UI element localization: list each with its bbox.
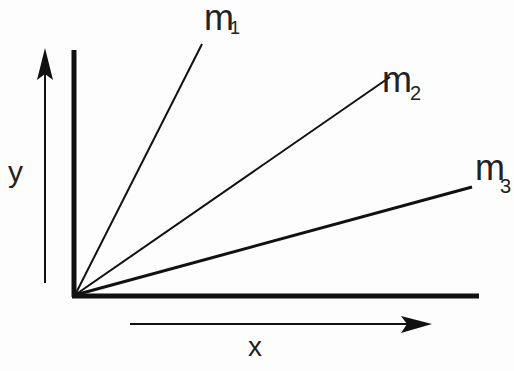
- label-m2: m: [382, 59, 412, 100]
- label-m2-subscript: 2: [410, 82, 421, 104]
- line-m1: [75, 44, 202, 295]
- label-m1-subscript: 1: [230, 18, 240, 38]
- line-m3: [75, 187, 472, 295]
- line-m2: [75, 77, 390, 295]
- x-axis-label: x: [248, 331, 262, 362]
- label-m3-subscript: 3: [500, 175, 511, 197]
- slope-diagram: y x m 1 m 2 m 3: [0, 0, 514, 371]
- y-axis-label: y: [8, 155, 23, 188]
